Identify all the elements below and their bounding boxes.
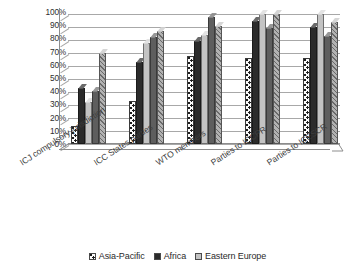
legend-item: Eastern Europe bbox=[195, 251, 266, 261]
x-axis-label: Parties to ICESCR bbox=[265, 121, 329, 167]
legend-label: Eastern Europe bbox=[205, 251, 266, 261]
x-axis-label: Parties to ICCPR bbox=[209, 124, 268, 167]
x-axis-label: ICC States parties bbox=[92, 122, 154, 167]
legend-label: Asia-Pacific bbox=[99, 251, 145, 261]
bar-chart: 100% 90% 80% 70% 60% 50% 40% 30% 20% 10%… bbox=[0, 0, 355, 267]
x-axis-labels: ICJ compulsory jurisdiction ICC States p… bbox=[0, 0, 355, 267]
dark-swatch-icon bbox=[154, 253, 161, 260]
legend-label: Africa bbox=[164, 251, 186, 261]
legend-item: Asia-Pacific bbox=[89, 251, 145, 261]
chart-legend: Asia-Pacific Africa Eastern Europe bbox=[0, 251, 355, 261]
legend-item: Africa bbox=[154, 251, 186, 261]
light-grey-swatch-icon bbox=[195, 253, 202, 260]
x-axis-label: WTO members bbox=[154, 128, 207, 167]
dotted-swatch-icon bbox=[89, 253, 96, 260]
